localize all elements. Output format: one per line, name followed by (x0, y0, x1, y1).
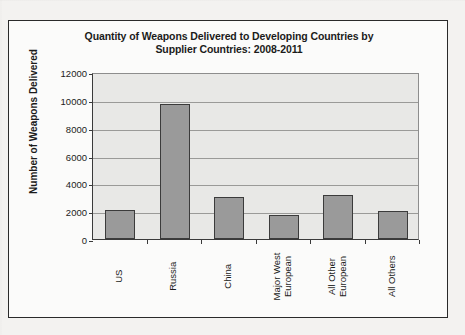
bar-slot (257, 74, 312, 239)
bar-slot (366, 74, 421, 239)
x-axis-category-label-line: All Other (327, 256, 338, 297)
y-axis-title: Number of Weapons Delivered (28, 37, 39, 207)
x-axis-category-label-line: Russia (168, 262, 179, 291)
bar-slot (311, 74, 366, 239)
bar-slot (148, 74, 203, 239)
y-axis-tick-label: 8000 (43, 123, 87, 134)
x-axis-tick-mark (310, 240, 311, 244)
x-axis-category-label-line: European (283, 253, 294, 301)
x-axis-category-label-text: China (223, 264, 234, 289)
bar[interactable] (323, 195, 353, 239)
bar[interactable] (269, 215, 299, 239)
x-axis-category-label-line: European (337, 256, 348, 297)
x-axis-tick-mark (256, 240, 257, 244)
x-axis-category-label-text: Major WestEuropean (272, 253, 293, 301)
x-axis-category-label-line: China (223, 264, 234, 289)
bar[interactable] (105, 210, 135, 239)
y-axis-tick-label: 0 (43, 235, 87, 246)
x-axis-category-labels: USRussiaChinaMajor WestEuropeanAll Other… (92, 245, 419, 315)
chart-figure-frame: Quantity of Weapons Delivered to Develop… (8, 20, 448, 318)
plot-area (92, 73, 419, 240)
bars-layer (93, 74, 418, 239)
x-axis-category-label-text: All OtherEuropean (327, 256, 348, 297)
y-axis-tick-label: 2000 (43, 207, 87, 218)
bar[interactable] (378, 211, 408, 239)
plot-wrapper: Number of Weapons Delivered 020004000600… (9, 21, 449, 319)
x-axis-category-label-line: All Others (387, 255, 398, 297)
bar[interactable] (214, 197, 244, 239)
bar-slot (202, 74, 257, 239)
x-axis-category-label-text: Russia (168, 262, 179, 291)
bar-slot (93, 74, 148, 239)
x-axis-category-label-line: Major West (272, 253, 283, 301)
y-axis-tick-label: 12000 (43, 68, 87, 79)
y-axis-tick-label: 4000 (43, 179, 87, 190)
y-axis-tick-label: 6000 (43, 151, 87, 162)
x-axis-category-label-line: US (114, 270, 125, 283)
y-axis-tick-labels: 020004000600080001000012000 (43, 73, 87, 240)
x-axis-tick-mark (201, 240, 202, 244)
y-axis-tick-label: 10000 (43, 95, 87, 106)
x-axis-tick-mark (147, 240, 148, 244)
x-axis-tick-mark (365, 240, 366, 244)
x-axis-category-label-text: US (114, 270, 125, 283)
x-axis-category-label: All Others (357, 245, 427, 311)
x-axis-tick-mark (419, 240, 420, 244)
bar[interactable] (160, 104, 190, 239)
x-axis-category-label-text: All Others (387, 255, 398, 297)
